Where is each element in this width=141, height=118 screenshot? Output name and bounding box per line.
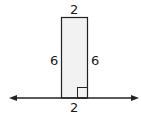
rectangle [62, 18, 88, 99]
label-left: 6 [50, 54, 58, 67]
right-arrow-icon [131, 95, 139, 101]
label-top: 2 [70, 3, 78, 16]
label-right: 6 [91, 54, 99, 67]
label-bottom: 2 [70, 101, 78, 114]
left-arrow-icon [9, 95, 17, 101]
